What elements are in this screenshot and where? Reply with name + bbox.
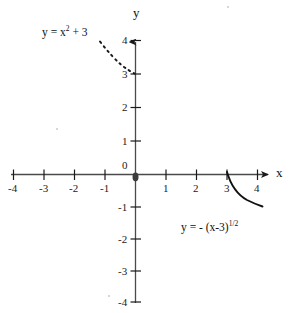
y-tick-label--4: -4 (118, 297, 127, 308)
origin-label: 0 (122, 160, 128, 171)
x-tick-label--3: -3 (39, 183, 48, 194)
x-axis-label: x (276, 166, 283, 179)
parabola-label-tail: + 3 (70, 26, 88, 38)
x-tick-label-4: 4 (254, 183, 260, 194)
y-axis-label: y (133, 6, 140, 19)
radical-label-base: y = - (x-3) (181, 221, 229, 233)
x-tick-label--1: -1 (100, 183, 109, 194)
x-tick-label-3: 3 (224, 183, 230, 194)
y-tick-label-1: 1 (122, 136, 128, 147)
scan-speck-left (56, 128, 58, 130)
x-tick-label-1: 1 (163, 183, 169, 194)
y-tick-label--1: -1 (118, 202, 127, 213)
radical-label: y = - (x-3)1/2 (181, 222, 238, 234)
coordinate-plane-svg (0, 0, 290, 313)
y-tick-label-3: 3 (122, 69, 128, 80)
scan-speck-bottom (108, 295, 110, 297)
x-tick-label--4: -4 (8, 183, 17, 194)
y-tick-label-2: 2 (122, 102, 128, 113)
parabola-curve (100, 42, 135, 74)
parabola-label-base: y = x (42, 26, 66, 38)
origin-dot (133, 173, 139, 182)
graph-figure: -4 -3 -2 -1 1 2 3 4 0 1 2 3 4 -1 -2 -3 -… (0, 0, 290, 313)
scan-speck-top (227, 6, 229, 8)
y-tick-label--3: -3 (118, 266, 127, 277)
radical-label-exponent: 1/2 (229, 219, 239, 228)
x-tick-label--2: -2 (69, 183, 78, 194)
parabola-label: y = x2 + 3 (42, 27, 88, 39)
y-tick-label--2: -2 (118, 234, 127, 245)
y-tick-label-4: 4 (122, 35, 128, 46)
x-tick-label-2: 2 (193, 183, 199, 194)
